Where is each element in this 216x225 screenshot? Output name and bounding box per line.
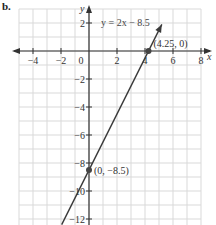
x-axis-label: x — [206, 51, 212, 62]
x-tick-label: 0 — [79, 55, 84, 66]
y-tick-label: −8 — [74, 158, 85, 169]
x-tick-label: 8 — [199, 55, 204, 66]
line-y-2x-minus-8.5 — [62, 24, 162, 224]
x-tick-label: 6 — [171, 55, 176, 66]
y-tick-label: −6 — [74, 130, 85, 141]
x-axis-left-arrow-icon — [12, 48, 20, 54]
x-tick-label: −4 — [28, 55, 39, 66]
equation-label: y = 2x − 8.5 — [101, 17, 150, 28]
point-label: (0, −8.5) — [94, 165, 129, 177]
x-tick-label: 2 — [115, 55, 120, 66]
line-chart: −4−2024682−2−4−6−8−10−12xy (4.25, 0)(0, … — [0, 0, 216, 225]
y-tick-label: −2 — [74, 74, 85, 85]
y-tick-label: −4 — [74, 102, 85, 113]
y-axis-label: y — [79, 3, 85, 14]
point-marker — [146, 48, 152, 54]
series-line — [62, 24, 162, 224]
point-marker — [86, 167, 92, 173]
y-tick-label: −12 — [69, 214, 85, 225]
y-tick-label: 2 — [80, 18, 85, 29]
x-tick-label: −2 — [56, 55, 67, 66]
point-label: (4.25, 0) — [154, 38, 188, 50]
